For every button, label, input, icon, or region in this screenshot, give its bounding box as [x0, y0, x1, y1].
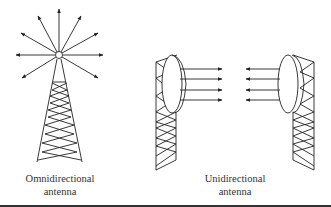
uni-label-line2: antenna	[185, 185, 285, 198]
omni-label-line2: antenna	[10, 185, 110, 198]
unidirectional-antenna-left-icon	[156, 55, 222, 170]
omnidirectional-label: Omnidirectional antenna	[10, 172, 110, 198]
bottom-divider	[0, 205, 331, 207]
omni-label-line1: Omnidirectional	[10, 172, 110, 185]
receive-arrows	[246, 69, 280, 100]
unidirectional-label: Unidirectional antenna	[185, 172, 285, 198]
uni-label-line1: Unidirectional	[185, 172, 285, 185]
omnidirectional-antenna-icon	[16, 9, 103, 162]
radiation-arrows	[16, 9, 103, 78]
unidirectional-antenna-right-icon	[246, 55, 314, 170]
